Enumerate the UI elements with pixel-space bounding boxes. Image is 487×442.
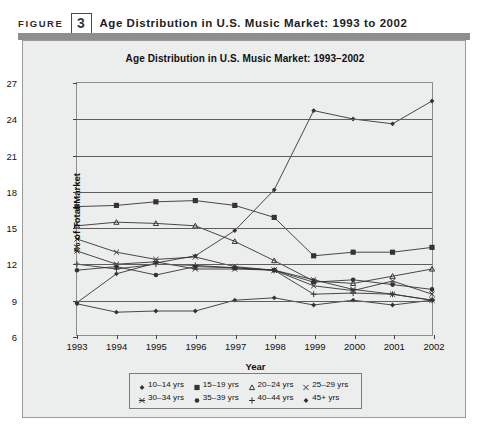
x-tick-mark	[275, 335, 276, 339]
x-tick-label: 2002	[412, 341, 456, 352]
data-point	[232, 203, 237, 208]
x-tick-label: 1997	[214, 341, 258, 352]
legend-item[interactable]: 45+ yrs	[300, 392, 355, 403]
series-line	[77, 101, 432, 303]
legend-row: 30–34 yrs35–39 yrs40–44 yrs45+ yrs	[136, 391, 355, 404]
legend-label: 10–14 yrs	[148, 380, 184, 389]
series-layer	[77, 83, 432, 335]
x-tick-mark	[117, 335, 118, 339]
gridline	[77, 264, 432, 265]
x-tick-mark	[315, 335, 316, 339]
legend-marker-icon	[191, 379, 203, 390]
x-tick-mark	[77, 335, 78, 339]
legend-label: 25–29 yrs	[312, 380, 348, 389]
gridline	[77, 192, 432, 193]
y-tick-label: 9	[0, 295, 17, 306]
x-tick-mark	[394, 335, 395, 339]
x-tick-label: 2001	[372, 341, 416, 352]
x-tick-label: 1999	[293, 341, 337, 352]
y-tick-label: 15	[0, 223, 17, 234]
y-tick-mark	[73, 264, 77, 265]
plot-area: % of Total Market Year 69121518212427199…	[76, 82, 433, 336]
gridline	[77, 156, 432, 157]
data-point	[311, 291, 317, 297]
legend-item[interactable]: 10–14 yrs	[136, 379, 191, 390]
x-tick-label: 1996	[174, 341, 218, 352]
x-tick-mark	[355, 335, 356, 339]
data-point	[390, 303, 395, 308]
data-point	[429, 266, 434, 271]
legend-marker-icon	[136, 392, 148, 403]
data-point	[154, 309, 159, 314]
chart-frame: Age Distribution in U.S. Music Market: 1…	[22, 40, 466, 418]
legend-label: 20–24 yrs	[258, 380, 294, 389]
gridline	[77, 301, 432, 302]
x-tick-mark	[434, 335, 435, 339]
legend-label: 45+ yrs	[312, 393, 339, 402]
legend-marker-icon	[246, 392, 258, 403]
y-tick-label: 18	[0, 186, 17, 197]
data-point	[114, 310, 119, 315]
data-point	[154, 273, 159, 278]
legend-row: 10–14 yrs15–19 yrs20–24 yrs25–29 yrs	[136, 378, 355, 391]
legend-label: 15–19 yrs	[203, 380, 239, 389]
x-tick-label: 1998	[253, 341, 297, 352]
y-tick-label: 21	[0, 150, 17, 161]
x-tick-mark	[196, 335, 197, 339]
chart-legend: 10–14 yrs15–19 yrs20–24 yrs25–29 yrs 30–…	[129, 373, 362, 409]
data-point	[311, 253, 316, 258]
series-line	[77, 251, 432, 300]
legend-item[interactable]: 20–24 yrs	[246, 379, 301, 390]
x-tick-mark	[156, 335, 157, 339]
header-divider	[18, 33, 470, 40]
figure-header: FIGURE 3 Age Distribution in U.S. Music …	[18, 13, 470, 33]
x-tick-label: 1993	[55, 341, 99, 352]
data-point	[311, 303, 316, 308]
data-point	[153, 199, 158, 204]
y-tick-mark	[73, 301, 77, 302]
y-tick-label: 24	[0, 114, 17, 125]
data-point	[193, 198, 198, 203]
data-point	[430, 99, 435, 104]
data-point	[114, 203, 119, 208]
gridline	[77, 228, 432, 229]
legend-item[interactable]: 40–44 yrs	[246, 392, 301, 403]
gridline	[77, 119, 432, 120]
x-tick-label: 2000	[333, 341, 377, 352]
legend-marker-icon	[300, 379, 312, 390]
legend-marker-icon	[191, 392, 203, 403]
x-tick-label: 1994	[95, 341, 139, 352]
legend-item[interactable]: 35–39 yrs	[191, 392, 246, 403]
data-point	[390, 282, 395, 287]
y-tick-mark	[73, 119, 77, 120]
y-tick-mark	[73, 83, 77, 84]
legend-marker-icon	[246, 379, 258, 390]
figure-page: FIGURE 3 Age Distribution in U.S. Music …	[0, 0, 487, 442]
data-point	[272, 215, 277, 220]
data-point	[193, 309, 198, 314]
data-point	[390, 250, 395, 255]
legend-label: 30–34 yrs	[148, 393, 184, 402]
figure-label: FIGURE	[18, 18, 64, 29]
series-line	[77, 222, 432, 283]
data-point	[429, 292, 434, 297]
y-tick-label: 27	[0, 78, 17, 89]
data-point	[429, 245, 434, 250]
data-point	[75, 268, 80, 273]
data-point	[430, 287, 435, 292]
legend-item[interactable]: 30–34 yrs	[136, 392, 191, 403]
x-axis-label: Year	[77, 361, 434, 372]
data-point	[272, 295, 277, 300]
legend-label: 35–39 yrs	[203, 393, 239, 402]
legend-item[interactable]: 15–19 yrs	[191, 379, 246, 390]
figure-number-box: 3	[71, 13, 92, 34]
legend-marker-icon	[136, 379, 148, 390]
y-tick-label: 12	[0, 259, 17, 270]
legend-marker-icon	[300, 392, 312, 403]
legend-item[interactable]: 25–29 yrs	[300, 379, 355, 390]
data-point	[351, 278, 356, 283]
data-point	[311, 280, 316, 285]
y-tick-mark	[73, 156, 77, 157]
series-line	[77, 239, 432, 294]
x-tick-mark	[236, 335, 237, 339]
